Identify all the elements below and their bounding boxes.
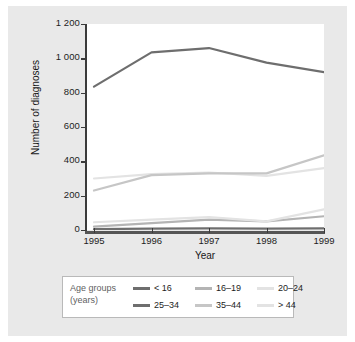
y-tick-label: 600 xyxy=(36,120,80,131)
x-tick-mark xyxy=(94,228,95,233)
y-tick-mark xyxy=(81,127,85,128)
chart-figure: 02004006008001 0001 200 Number of diagno… xyxy=(8,6,347,336)
legend-swatch-icon xyxy=(195,287,212,290)
x-tick-mark xyxy=(209,228,210,233)
x-tick-label: 1997 xyxy=(187,235,231,246)
y-tick-mark xyxy=(81,161,85,162)
legend-row: < 1616–1920–24 xyxy=(133,281,291,295)
x-tick-label: 1998 xyxy=(245,235,289,246)
legend-swatch-icon xyxy=(133,287,150,290)
legend-label: 25–34 xyxy=(154,298,179,312)
x-tick-label: 1999 xyxy=(302,235,346,246)
x-tick-label: 1996 xyxy=(130,235,174,246)
legend-title-line2: (years) xyxy=(70,294,132,306)
x-axis-title: Year xyxy=(86,250,324,261)
y-tick-label: 800 xyxy=(36,86,80,97)
legend-label: < 16 xyxy=(154,281,172,295)
legend-title-line1: Age groups xyxy=(70,282,132,294)
legend-title: Age groups (years) xyxy=(70,282,132,306)
legend-swatch-icon xyxy=(257,304,274,307)
legend-label: 35–44 xyxy=(216,298,241,312)
legend-label: 16–19 xyxy=(216,281,241,295)
legend-label: 20–24 xyxy=(278,281,303,295)
series-line xyxy=(94,48,324,87)
y-tick-mark xyxy=(81,24,85,25)
line-chart-svg xyxy=(86,24,324,230)
legend-row: 25–3435–44> 44 xyxy=(133,298,291,312)
legend: Age groups (years) < 1616–1920–24 25–343… xyxy=(62,276,294,318)
legend-swatch-icon xyxy=(257,287,274,290)
plot-area xyxy=(86,24,324,230)
x-tick-mark xyxy=(324,228,325,233)
x-tick-label: 1995 xyxy=(72,235,116,246)
y-tick-label: 1 000 xyxy=(36,51,80,62)
y-axis-line xyxy=(85,24,87,232)
x-tick-mark xyxy=(152,228,153,233)
y-tick-mark xyxy=(81,58,85,59)
y-tick-mark xyxy=(81,196,85,197)
legend-swatch-icon xyxy=(195,304,212,307)
y-tick-label: 1 200 xyxy=(36,17,80,28)
y-tick-mark xyxy=(81,230,85,231)
x-axis-line xyxy=(85,231,325,234)
y-tick-label: 400 xyxy=(36,154,80,165)
legend-swatch-icon xyxy=(133,304,150,307)
x-tick-mark xyxy=(267,228,268,233)
y-tick-mark xyxy=(81,93,85,94)
y-axis-title: Number of diagnoses xyxy=(30,43,41,173)
legend-label: > 44 xyxy=(278,298,296,312)
y-tick-label: 0 xyxy=(36,223,80,234)
y-tick-label: 200 xyxy=(36,189,80,200)
